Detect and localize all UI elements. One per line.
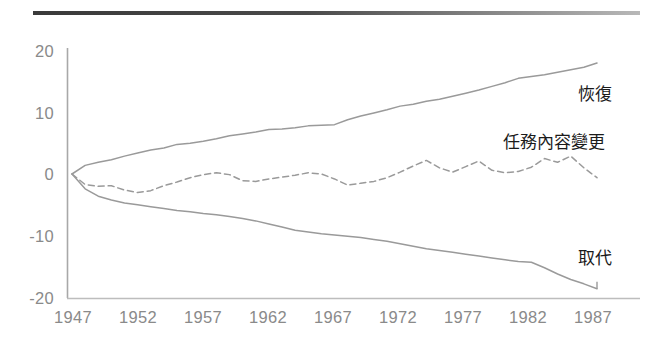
series-label: 任務內容變更 xyxy=(503,128,605,153)
y-tick-label: 0 xyxy=(8,165,54,184)
y-tick-label: -20 xyxy=(8,289,54,308)
x-tick-label: 1947 xyxy=(43,308,103,327)
x-tick-label: 1962 xyxy=(238,308,298,327)
x-tick-label: 1967 xyxy=(303,308,363,327)
y-tick-label: 20 xyxy=(8,42,54,61)
series-label: 取代 xyxy=(578,244,612,269)
y-tick-label: -10 xyxy=(8,227,54,246)
x-tick-label: 1982 xyxy=(498,308,558,327)
x-tick-label: 1977 xyxy=(433,308,493,327)
x-tick-label: 1987 xyxy=(563,308,623,327)
data-series-group xyxy=(72,63,597,289)
chart-figure: 20100-10-20 1947195219571962196719721977… xyxy=(0,0,649,353)
x-tick-label: 1957 xyxy=(173,308,233,327)
line-chart-plot xyxy=(0,0,649,353)
series-label: 恢復 xyxy=(578,80,612,105)
series-line-1 xyxy=(72,63,597,174)
series-line-2 xyxy=(72,156,597,192)
x-tick-label: 1972 xyxy=(368,308,428,327)
x-tick-label: 1952 xyxy=(108,308,168,327)
y-tick-label: 10 xyxy=(8,104,54,123)
